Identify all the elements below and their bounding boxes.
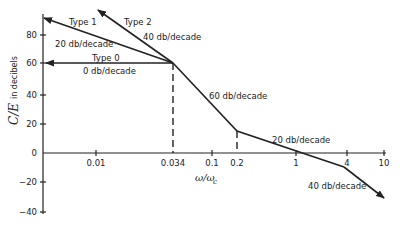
label-type0: Type 0 [91, 53, 120, 63]
x-tick-0.034: 0.034 [161, 158, 185, 168]
svg-text:ω/ω: ω/ω [195, 172, 215, 183]
x-tick-1: 1 [293, 158, 298, 168]
x-tick-4: 4 [344, 158, 349, 168]
label-slope-60: 60 db/decade [209, 91, 267, 101]
y-ticks: 80 60 40 20 0 −20 −40 [19, 30, 46, 217]
common-asymptote [173, 63, 344, 167]
x-tick-10: 10 [379, 158, 390, 168]
y-tick-minus20: −20 [19, 177, 37, 187]
bode-plot: 80 60 40 20 0 −20 −40 0.01 0.034 0.1 0.2… [0, 0, 403, 225]
label-slope-20: 20 db/decade [272, 135, 330, 145]
label-type1: Type 1 [68, 17, 97, 27]
y-tick-60: 60 [26, 58, 37, 68]
label-slope-type0: 0 db/decade [83, 66, 136, 76]
y-tick-80: 80 [26, 30, 37, 40]
svg-text:in decibels: in decibels [10, 56, 19, 99]
x-axis-label: ω/ω c [195, 172, 217, 186]
label-type2: Type 2 [123, 17, 152, 27]
svg-text:c: c [213, 178, 217, 186]
label-slope-type1: 20 db/decade [55, 39, 113, 49]
y-axis-label: C/E in decibels [7, 56, 21, 125]
y-tick-40: 40 [26, 90, 37, 100]
x-tick-0.2: 0.2 [230, 158, 244, 168]
svg-text:C/E: C/E [7, 103, 21, 125]
y-tick-0: 0 [32, 148, 37, 158]
x-tick-0.1: 0.1 [205, 158, 219, 168]
label-slope-40-end: 40 db/decade [308, 181, 366, 191]
y-tick-20: 20 [26, 119, 37, 129]
label-slope-type2: 40 db/decade [143, 32, 201, 42]
x-tick-0.01: 0.01 [87, 158, 106, 168]
y-tick-minus40: −40 [19, 207, 37, 217]
